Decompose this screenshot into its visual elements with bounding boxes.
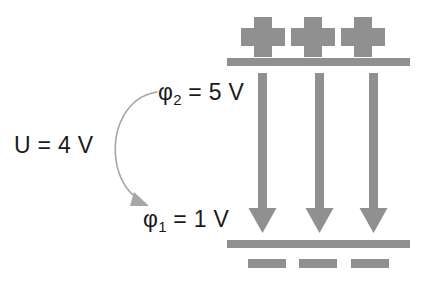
phi1-value: = 1 V — [167, 206, 230, 232]
bottom-plate — [227, 240, 410, 248]
phi1-label: φ1 = 1 V — [143, 208, 229, 231]
phi2-value: = 5 V — [182, 79, 245, 105]
field-arrow-2 — [306, 73, 334, 233]
phi2-subscript: 2 — [173, 91, 181, 108]
top-plate-charges — [241, 17, 385, 57]
field-arrow-1 — [249, 73, 277, 233]
phi1-symbol: φ — [143, 206, 158, 232]
minus-icon-2 — [299, 259, 337, 268]
electric-field-arrows — [249, 73, 388, 233]
top-plate — [227, 58, 410, 66]
potential-difference-arrow — [115, 92, 157, 206]
plus-icon-2 — [291, 17, 335, 57]
phi2-label: φ2 = 5 V — [158, 81, 244, 104]
capacitor-potential-diagram: U = 4 V φ2 = 5 V φ1 = 1 V — [0, 0, 428, 284]
phi1-subscript: 1 — [158, 218, 166, 235]
plus-icon-3 — [341, 17, 385, 57]
minus-icon-3 — [351, 259, 389, 268]
minus-icon-1 — [248, 259, 286, 268]
voltage-label: U = 4 V — [14, 134, 93, 157]
bottom-plate-charges — [248, 259, 389, 268]
field-arrow-3 — [360, 73, 388, 233]
plus-icon-1 — [241, 17, 285, 57]
phi2-symbol: φ — [158, 79, 173, 105]
